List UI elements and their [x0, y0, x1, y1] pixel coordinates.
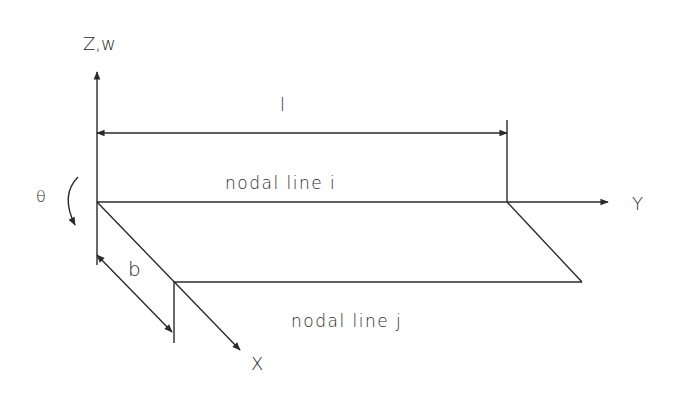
width-label: b	[128, 257, 141, 281]
length-label: l	[280, 94, 285, 115]
nodal-line-i-label: nodal line i	[225, 173, 336, 193]
z-axis-label: Z,w	[83, 33, 116, 54]
strip-right-edge	[507, 202, 582, 282]
nodal-line-j-label: nodal line j	[291, 311, 402, 331]
x-axis-label: X	[251, 353, 263, 374]
rotation-arrow-icon	[68, 177, 78, 225]
y-axis-label: Y	[632, 193, 643, 214]
strip-diagram: Z,w l Y nodal line i nodal line j X b θ	[0, 0, 682, 395]
rotation-label: θ	[36, 187, 46, 206]
